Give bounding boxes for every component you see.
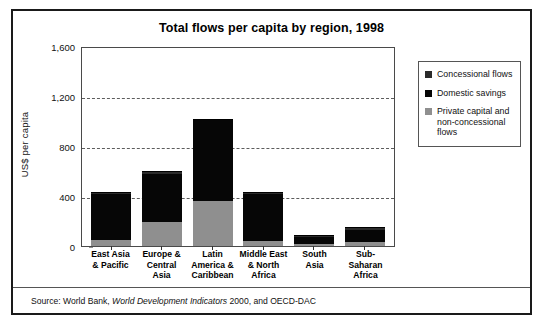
bar-segment xyxy=(142,174,182,223)
legend-label: Private capital and non-concessional flo… xyxy=(437,106,514,138)
x-category-label-line: Asia xyxy=(138,270,186,281)
y-tick-label: 400 xyxy=(25,192,75,203)
bar-group xyxy=(82,48,394,246)
x-category-label: LatinAmerica &Caribbean xyxy=(189,249,237,281)
y-tick-label: 0 xyxy=(25,242,75,253)
source-suffix: 2000, and OECD-DAC xyxy=(230,296,316,306)
source-italic-title: World Development Indicators xyxy=(112,296,227,306)
x-category-label-line: & North xyxy=(240,260,288,271)
bar-slot xyxy=(193,48,233,246)
bar-slot xyxy=(294,48,334,246)
stacked-bar[interactable] xyxy=(142,171,182,246)
x-category-label-line: Africa xyxy=(342,270,390,281)
legend-label: Concessional flows xyxy=(437,69,512,80)
source-note: Source: World Bank, World Development In… xyxy=(31,296,316,306)
x-category-label-line: South xyxy=(291,249,339,260)
stacked-bar[interactable] xyxy=(345,227,385,246)
x-category-label-line: Sub-Saharan xyxy=(342,249,390,270)
x-axis-category-labels: East Asia& PacificEurope &CentralAsiaLat… xyxy=(81,249,395,281)
bar-segment xyxy=(345,230,385,242)
x-category-label-line: Latin xyxy=(189,249,237,260)
x-category-label-line: Central xyxy=(138,260,186,271)
x-category-label: Europe &CentralAsia xyxy=(138,249,186,281)
bar-segment xyxy=(243,194,283,241)
x-category-label-line: Europe & xyxy=(138,249,186,260)
x-category-label-line: Africa xyxy=(240,270,288,281)
bar-segment xyxy=(294,237,334,244)
x-category-label-line: Middle East xyxy=(240,249,288,260)
chart-title: Total flows per capita by region, 1998 xyxy=(13,21,530,35)
bar-slot xyxy=(142,48,182,246)
legend-item[interactable]: Domestic savings xyxy=(425,88,514,99)
y-tick-label: 1,600 xyxy=(25,42,75,53)
square-swatch-icon xyxy=(425,108,432,115)
x-category-label-line: East Asia xyxy=(87,249,135,260)
bar-segment xyxy=(193,120,233,201)
y-tick-label: 1,200 xyxy=(25,92,75,103)
plot-area xyxy=(81,47,395,247)
legend-label: Domestic savings xyxy=(437,88,506,99)
bar-slot xyxy=(243,48,283,246)
bar-segment xyxy=(193,201,233,246)
square-swatch-icon xyxy=(425,90,432,97)
x-category-label: Sub-SaharanAfrica xyxy=(342,249,390,281)
legend-item[interactable]: Private capital and non-concessional flo… xyxy=(425,106,514,138)
stacked-bar[interactable] xyxy=(243,192,283,246)
square-swatch-icon xyxy=(425,71,432,78)
x-category-label-line: Asia xyxy=(291,260,339,271)
bar-slot xyxy=(91,48,131,246)
x-category-label: Middle East& NorthAfrica xyxy=(240,249,288,281)
source-divider xyxy=(13,287,530,288)
bar-slot xyxy=(345,48,385,246)
x-category-label-line: America & xyxy=(189,260,237,271)
x-category-label: East Asia& Pacific xyxy=(87,249,135,281)
chart-figure: Total flows per capita by region, 1998 U… xyxy=(11,9,532,315)
stacked-bar[interactable] xyxy=(91,192,131,246)
legend-item[interactable]: Concessional flows xyxy=(425,69,514,80)
chart-legend: Concessional flowsDomestic savingsPrivat… xyxy=(418,61,521,147)
x-category-label-line: & Pacific xyxy=(87,260,135,271)
bar-segment xyxy=(91,194,131,240)
stacked-bar[interactable] xyxy=(193,119,233,247)
bar-segment xyxy=(142,222,182,246)
x-category-label: SouthAsia xyxy=(291,249,339,281)
x-category-label-line: Caribbean xyxy=(189,270,237,281)
stacked-bar[interactable] xyxy=(294,235,334,246)
y-tick-label: 800 xyxy=(25,142,75,153)
source-prefix: Source: World Bank, xyxy=(31,296,110,306)
y-axis-ticks: 04008001,2001,600 xyxy=(25,47,75,247)
